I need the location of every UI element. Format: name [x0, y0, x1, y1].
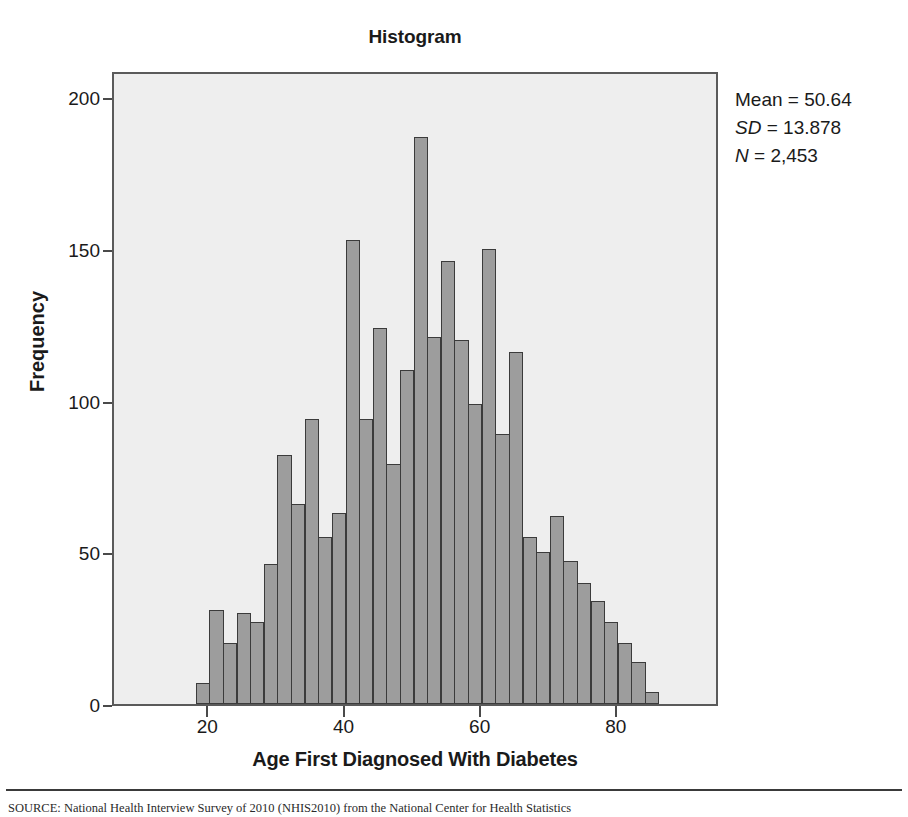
histogram-bar — [454, 340, 468, 704]
histogram-bar — [645, 692, 659, 704]
histogram-bar — [346, 240, 360, 704]
histogram-bar — [209, 610, 223, 704]
y-tick-mark — [103, 250, 112, 252]
y-tick-mark — [103, 98, 112, 100]
histogram-bar — [563, 561, 577, 704]
histogram-bar — [332, 513, 346, 704]
histogram-bar — [291, 504, 305, 704]
histogram-bar — [523, 537, 537, 704]
bars-container — [114, 74, 716, 704]
y-tick-label: 50 — [38, 543, 100, 565]
histogram-bar — [591, 601, 605, 704]
histogram-bar — [468, 404, 482, 704]
histogram-bar — [386, 464, 400, 704]
y-tick-mark — [103, 553, 112, 555]
histogram-figure: Histogram 050100150200 Frequency 2040608… — [0, 0, 908, 790]
histogram-bar — [196, 683, 210, 704]
x-tick-label: 40 — [314, 716, 374, 738]
histogram-bar — [277, 455, 291, 704]
histogram-bar — [373, 328, 387, 704]
statistics-annotation: Mean = 50.64 SD = 13.878 N = 2,453 — [735, 86, 852, 170]
histogram-bar — [495, 434, 509, 704]
histogram-bar — [631, 662, 645, 704]
footer-divider — [6, 789, 902, 791]
stat-n-value: = 2,453 — [749, 145, 818, 166]
histogram-bar — [427, 337, 441, 704]
source-note: SOURCE: National Health Interview Survey… — [8, 801, 902, 817]
stat-n-symbol: N — [735, 145, 749, 166]
x-tick-label: 60 — [450, 716, 510, 738]
y-tick-mark — [103, 402, 112, 404]
y-axis-title: Frequency — [26, 242, 49, 442]
y-tick-label: 0 — [38, 695, 100, 717]
histogram-bar — [237, 613, 251, 704]
stat-sd-value: = 13.878 — [761, 117, 841, 138]
histogram-bar — [305, 419, 319, 704]
histogram-bar — [550, 516, 564, 704]
x-tick-mark — [615, 706, 617, 717]
x-tick-label: 80 — [586, 716, 646, 738]
plot-area — [112, 72, 718, 706]
histogram-bar — [250, 622, 264, 704]
y-tick-mark — [103, 705, 112, 707]
y-tick-label: 200 — [38, 88, 100, 110]
histogram-bar — [223, 643, 237, 704]
x-tick-label: 20 — [177, 716, 237, 738]
x-tick-mark — [206, 706, 208, 717]
stat-sd-symbol: SD — [735, 117, 761, 138]
histogram-bar — [264, 564, 278, 704]
histogram-bar — [400, 370, 414, 704]
histogram-bar — [318, 537, 332, 704]
stat-mean: Mean = 50.64 — [735, 86, 852, 114]
histogram-bar — [441, 261, 455, 704]
histogram-bar — [359, 419, 373, 704]
stat-sd: SD = 13.878 — [735, 114, 852, 142]
x-axis-title: Age First Diagnosed With Diabetes — [112, 748, 718, 771]
x-tick-mark — [479, 706, 481, 717]
histogram-bar — [536, 552, 550, 704]
histogram-bar — [577, 583, 591, 704]
histogram-bar — [509, 352, 523, 704]
x-tick-mark — [343, 706, 345, 717]
histogram-bar — [604, 622, 618, 704]
chart-title: Histogram — [112, 26, 718, 48]
histogram-bar — [482, 249, 496, 704]
histogram-bar — [414, 137, 428, 704]
histogram-bar — [618, 643, 632, 704]
stat-n: N = 2,453 — [735, 142, 852, 170]
